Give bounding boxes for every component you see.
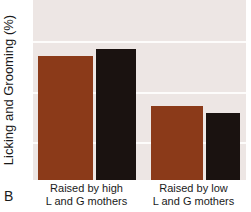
y-axis-title: Licking and Grooming (%) [0, 0, 17, 180]
bar-low-black [206, 113, 240, 180]
x-label-group-low-line1: Raised by low [141, 182, 246, 195]
panel-label: B [4, 188, 13, 204]
bar-high-black [96, 49, 136, 180]
x-label-group-high-line1: Raised by high [33, 182, 140, 195]
x-axis-labels: Raised by high L and G mothers Raised by… [33, 182, 246, 212]
x-label-group-high-line2: L and G mothers [33, 195, 140, 208]
gridline-upper [33, 41, 246, 43]
x-label-group-low-line2: L and G mothers [141, 195, 246, 208]
figure-panel-b: Licking and Grooming (%) B Raised by hig… [0, 0, 251, 212]
x-label-group-low: Raised by low L and G mothers [141, 182, 246, 208]
bar-low-brown [151, 106, 203, 180]
plot-area [33, 0, 246, 180]
x-label-group-high: Raised by high L and G mothers [33, 182, 140, 208]
bar-high-brown [38, 56, 93, 180]
